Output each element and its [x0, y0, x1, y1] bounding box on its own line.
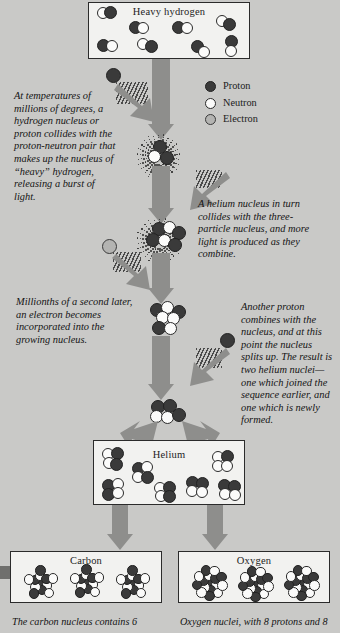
- collision-arrow-step1: [112, 80, 172, 128]
- oxygen-nucleus-cluster: [281, 565, 323, 601]
- particle-proton: [163, 490, 176, 503]
- particle-neutron: [44, 588, 54, 598]
- neutron-swatch-icon: [205, 98, 216, 109]
- particle-neutron: [24, 574, 34, 584]
- particle-neutron: [94, 572, 104, 582]
- annotation-step4: Another proton combines with the nucleus…: [241, 301, 333, 427]
- particle-neutron: [217, 580, 228, 591]
- flow-arrow-head: [107, 534, 133, 550]
- particle-proton: [104, 6, 117, 19]
- particle-neutron: [106, 40, 118, 52]
- particle-neutron: [263, 581, 274, 592]
- particle-proton: [29, 588, 39, 598]
- panel-helium: Helium: [93, 440, 245, 505]
- legend-label-proton: Proton: [223, 80, 250, 91]
- legend-label-electron: Electron: [223, 113, 258, 124]
- flow-arrow-head: [148, 384, 174, 400]
- particle-proton: [110, 458, 123, 471]
- particle-proton: [75, 587, 85, 597]
- caption-oxygen: Oxygen nuclei, with 8 protons and 8: [180, 616, 340, 628]
- panel-carbon: Carbon: [10, 551, 162, 603]
- particle-neutron: [112, 487, 124, 499]
- caption-carbon: The carbon nucleus contains 6: [12, 616, 172, 628]
- flow-arrow-shaft: [152, 336, 170, 388]
- electron-swatch-icon: [205, 114, 216, 125]
- particle-neutron: [137, 22, 149, 34]
- collision-arrow-step4: [176, 344, 232, 392]
- oxygen-nucleus-cluster: [189, 565, 231, 601]
- particle-neutron: [136, 588, 146, 598]
- particle-proton: [35, 565, 45, 575]
- particle-neutron: [225, 45, 237, 57]
- particle-proton: [223, 18, 236, 31]
- panel-heavy-hydrogen: Heavy hydrogen: [88, 2, 250, 59]
- carbon-nucleus-cluster: [67, 565, 107, 599]
- particle-proton: [160, 151, 174, 165]
- annotation-step3: Millionths of a second later, an electro…: [16, 296, 138, 346]
- collision-arrow-step3: [110, 250, 166, 296]
- flow-arrow-shaft: [207, 505, 223, 537]
- legend-label-neutron: Neutron: [223, 97, 257, 108]
- fusion-diagram: Heavy hydrogen Proton Neutro: [0, 0, 340, 633]
- carbon-nucleus-cluster: [113, 566, 153, 600]
- particle-proton: [127, 565, 137, 575]
- particle-proton: [141, 471, 154, 484]
- particle-neutron: [181, 22, 193, 34]
- flow-arrow-shaft: [112, 505, 128, 537]
- oxygen-nucleus-cluster: [235, 566, 277, 602]
- particle-neutron: [229, 489, 241, 501]
- annotation-step1: At temperatures of millions of degrees, …: [14, 90, 118, 203]
- flow-arrow-head: [202, 534, 228, 550]
- particle-neutron: [140, 573, 150, 583]
- carbon-nucleus-cluster: [21, 566, 61, 600]
- panel-oxygen: Oxygen: [178, 551, 330, 603]
- particle-neutron: [221, 460, 233, 472]
- particle-proton: [145, 40, 158, 53]
- particle-neutron: [116, 574, 126, 584]
- particle-neutron: [198, 46, 210, 58]
- particle-neutron: [48, 573, 58, 583]
- particle-neutron: [309, 580, 320, 591]
- particle-neutron: [164, 322, 177, 335]
- particle-proton: [121, 588, 131, 598]
- particle-proton: [168, 238, 182, 252]
- particle-proton: [81, 564, 91, 574]
- particle-neutron: [70, 573, 80, 583]
- proton-swatch-icon: [205, 81, 216, 92]
- particle-neutron: [90, 587, 100, 597]
- particle-neutron: [196, 486, 208, 498]
- annotation-step2: A helium nucleus in turn collides with t…: [198, 198, 324, 261]
- flow-arrow-shaft: [152, 166, 170, 212]
